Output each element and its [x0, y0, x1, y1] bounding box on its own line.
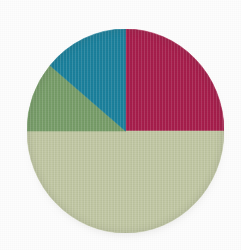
- pie-svg: [27, 29, 224, 233]
- pie-slice-pale-green: [27, 131, 224, 233]
- pie-slice-readout: Crimson 25%Pale Green 50%Medium Green 11…: [0, 16, 41, 17]
- pie-slice-crimson: [126, 29, 225, 131]
- pie-chart: [27, 29, 224, 233]
- pie-chart-figure: Crimson 25%Pale Green 50%Medium Green 11…: [0, 0, 241, 250]
- pie-slice-group: [27, 29, 224, 233]
- pie-slice-label: Crimson 25%: [40, 16, 41, 17]
